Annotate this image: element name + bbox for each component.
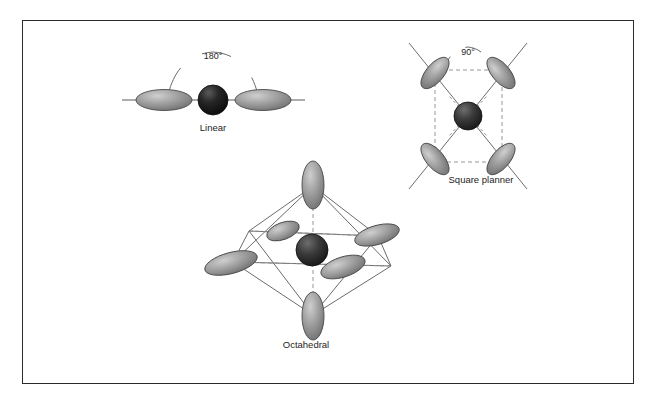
octahedral-ligand-lobe-bottom — [302, 292, 324, 340]
octahedral-ligand-lobe-back — [264, 217, 302, 245]
octahedral-caption: Octahedral — [283, 339, 329, 350]
linear-ligand-lobe-right — [235, 90, 291, 111]
octahedral-ligand-lobe-left-front — [202, 246, 260, 280]
square-planar-metal-center — [454, 102, 482, 130]
square-planar-bond-se — [477, 125, 488, 137]
square-planar-angle-label: 90° — [461, 47, 475, 57]
square-planar-bond-nw — [448, 95, 459, 107]
linear-caption: Linear — [200, 122, 226, 133]
linear-metal-center — [198, 85, 228, 115]
square-planar-caption: Square planner — [449, 174, 514, 185]
diagram-square-planar: 90° Square planner — [409, 43, 527, 189]
octahedral-ligand-lobe-right-back — [352, 220, 401, 251]
orbital-geometry-illustration: 180° Linear 90° — [0, 0, 655, 404]
octahedral-metal-center — [296, 234, 328, 266]
diagram-octahedral: Octahedral — [202, 161, 402, 350]
linear-ligand-lobe-left — [136, 90, 192, 111]
octahedral-ligand-lobe-top — [302, 161, 324, 209]
square-planar-bond-ne — [477, 95, 488, 107]
square-planar-bond-sw — [448, 125, 459, 137]
diagram-canvas: 180° Linear 90° — [0, 0, 655, 404]
diagram-linear: 180° Linear — [122, 51, 305, 133]
linear-angle-label: 180° — [204, 51, 223, 61]
